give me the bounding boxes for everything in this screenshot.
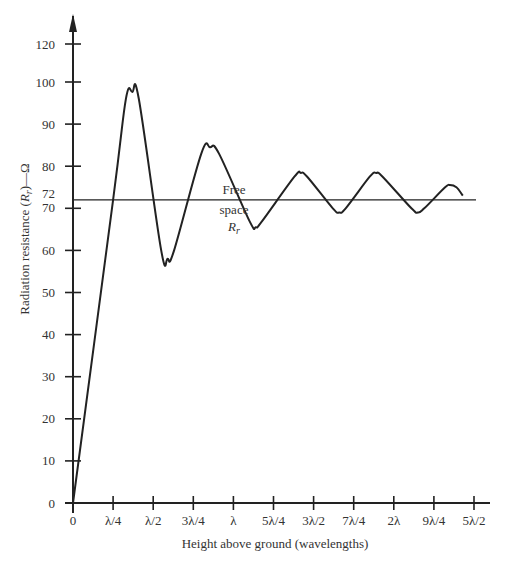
x-tick-label: 0: [70, 513, 77, 528]
annotation-rr: Rr: [227, 219, 240, 236]
y-tick-label: 10: [42, 453, 55, 468]
y-tick-label: 60: [42, 243, 55, 258]
x-tick-label: λ: [230, 513, 237, 528]
x-axis-title: Height above ground (wavelengths): [182, 536, 369, 551]
data-series: [73, 84, 476, 503]
y-tick-label: 90: [42, 117, 55, 132]
radiation-resistance-chart: 010203040506070728090100120 0λ/4λ/23λ/4λ…: [0, 0, 507, 571]
x-tick-label: λ/4: [105, 513, 122, 528]
y-tick-label: 80: [42, 159, 55, 174]
x-tick-label: λ/2: [145, 513, 161, 528]
x-tick-label: 2λ: [387, 513, 401, 528]
y-axis: 010203040506070728090100120: [36, 14, 82, 513]
x-axis: 0λ/4λ/23λ/4λ5λ/43λ/27λ/42λ9λ/45λ/2: [65, 496, 490, 528]
y-tick-label: 70: [42, 200, 55, 215]
y-tick-label: 30: [42, 369, 55, 384]
x-tick-label: 5λ/4: [262, 513, 285, 528]
x-tick-label: 3λ/2: [302, 513, 325, 528]
annotation-free: Free: [222, 182, 245, 197]
y-tick-label: 20: [42, 411, 55, 426]
free-space-annotation: FreespaceRr: [220, 182, 249, 236]
y-tick-label: 72: [42, 186, 55, 201]
y-tick-label: 50: [42, 285, 55, 300]
y-axis-arrow-icon: [69, 14, 77, 32]
y-tick-label: 120: [36, 37, 56, 52]
resistance-curve: [73, 84, 463, 503]
y-axis-title: Radiation resistance (Rr)—Ω: [17, 163, 34, 315]
y-tick-label: 0: [49, 496, 56, 511]
x-tick-label: 3λ/4: [182, 513, 205, 528]
y-tick-label: 40: [42, 327, 55, 342]
x-tick-label: 5λ/2: [463, 513, 486, 528]
y-tick-label: 100: [36, 75, 56, 90]
annotation-space: space: [220, 202, 249, 217]
x-tick-label: 9λ/4: [422, 513, 445, 528]
x-tick-label: 7λ/4: [342, 513, 365, 528]
